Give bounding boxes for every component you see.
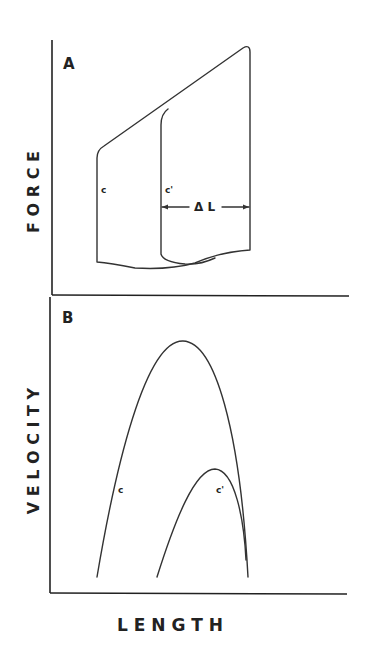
panel-b-curve-c-prime — [157, 469, 246, 577]
panel-b-x-axis — [50, 593, 347, 594]
panel-b-c-label: c — [118, 485, 123, 495]
force-axis-label: F O R C E — [24, 151, 43, 233]
figure: A B c c' Δ L c c' F O R C E V E L O C I … — [0, 0, 365, 646]
panel-b-curve-c — [97, 341, 248, 577]
panel-a-x-axis — [52, 295, 349, 296]
delta-l-label: Δ L — [194, 200, 215, 214]
velocity-axis-label: V E L O C I T Y — [24, 387, 43, 514]
length-axis-label: L E N G T H — [117, 615, 223, 635]
panel-b-label: B — [62, 309, 73, 327]
panel-a-label: A — [63, 55, 75, 73]
panel-b — [50, 297, 347, 594]
panel-a-c-prime-label: c' — [165, 185, 173, 195]
panel-a — [52, 40, 349, 296]
panel-a-curve-c — [97, 47, 250, 269]
panel-b-c-prime-label: c' — [216, 485, 224, 495]
panel-a-c-label: c — [101, 185, 106, 195]
